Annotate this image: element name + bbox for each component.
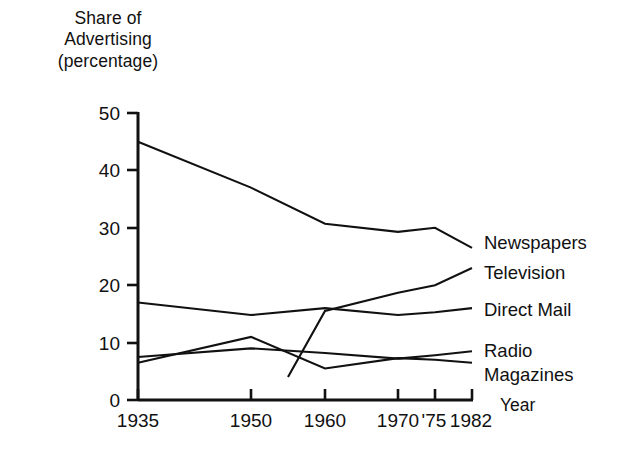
y-tick-label-20: 20: [99, 275, 120, 296]
series-label-newspapers: Newspapers: [484, 232, 587, 253]
y-tick-label-50: 50: [99, 103, 120, 124]
series-line-newspapers: [138, 142, 472, 248]
y-tick-label-40: 40: [99, 160, 120, 181]
series-line-radio: [138, 348, 472, 358]
x-tick-label-1950: 1950: [230, 410, 272, 431]
series-label-magazines: Magazines: [484, 364, 573, 385]
series-label-radio: Radio: [484, 340, 532, 361]
x-axis-title: Year: [500, 395, 536, 415]
series-label-television: Television: [484, 262, 565, 283]
y-tick-label-30: 30: [99, 218, 120, 239]
x-tick-label-1960: 1960: [304, 410, 346, 431]
series-line-direct-mail: [138, 302, 472, 315]
x-tick-label-1982: 1982: [450, 410, 492, 431]
y-tick-label-10: 10: [99, 333, 120, 354]
x-tick-label-1970: 1970: [377, 410, 419, 431]
y-tick-label-0: 0: [109, 390, 120, 411]
x-tick-label-1975: '75: [422, 410, 447, 431]
x-tick-label-1935: 1935: [117, 410, 159, 431]
series-label-direct-mail: Direct Mail: [484, 299, 571, 320]
chart-canvas: 50 40 30 20 10 0 1935 1950 1960 1970 '75…: [0, 0, 642, 458]
line-chart: Share of Advertising (percentage) 50 40 …: [0, 0, 642, 458]
